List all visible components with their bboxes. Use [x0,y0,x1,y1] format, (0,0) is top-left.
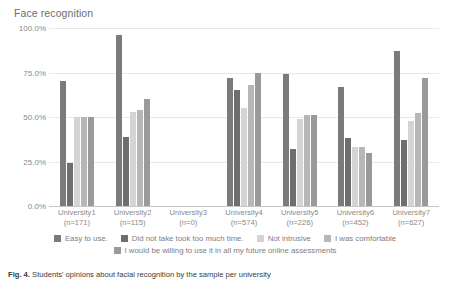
bar [352,147,358,206]
bar [130,112,136,206]
legend-swatch-icon [114,247,121,254]
plot-area [49,28,439,206]
bar [241,108,247,206]
bar [234,90,240,206]
legend-swatch-icon [54,235,61,242]
bar [422,78,428,206]
bar [67,163,73,206]
bar [304,115,310,206]
gridline [49,206,439,207]
x-axis-label: University3(n=0) [160,208,216,234]
bar [88,117,94,206]
bar-group [272,28,328,206]
bar [366,153,372,206]
legend-swatch-icon [324,235,331,242]
bar [144,99,150,206]
bar [359,147,365,206]
figure-caption: Fig. 4. Students' opinions about facial … [8,270,442,280]
bar-group [383,28,439,206]
x-axis-label-name: University5 [272,208,328,218]
figure-container: Face recognition 0.0%25.0%50.0%75.0%100.… [0,0,450,282]
bar-group [160,28,216,206]
x-axis-label: University6(n=452) [328,208,384,234]
bar [408,121,414,206]
bar [227,78,233,206]
x-axis-label: University5(n=226) [272,208,328,234]
bar [394,51,400,206]
bar-group [216,28,272,206]
bar [311,115,317,206]
x-axis-label: University7(n=627) [383,208,439,234]
bar-group [328,28,384,206]
legend-row: I would be willing to use it in all my f… [0,246,450,255]
legend-label: I would be willing to use it in all my f… [125,246,337,255]
x-axis-label-name: University7 [383,208,439,218]
legend-label: Not intrusive [268,234,311,243]
x-axis-label-name: University2 [105,208,161,218]
legend-item[interactable]: Did not take took too much time. [121,234,244,243]
legend-swatch-icon [257,235,264,242]
x-axis-label: University2(n=115) [105,208,161,234]
y-axis-tick-label: 25.0% [8,157,46,166]
x-axis-label-count: (n=226) [272,218,328,228]
bar [338,87,344,206]
legend-item[interactable]: I would be willing to use it in all my f… [114,246,337,255]
x-axis-label-name: University1 [49,208,105,218]
bar [345,138,351,206]
legend-item[interactable]: Not intrusive [257,234,311,243]
bar [255,73,261,207]
bar [290,149,296,206]
x-axis-label-count: (n=452) [328,218,384,228]
y-axis-tick-label: 75.0% [8,68,46,77]
x-axis-label: University1(n=171) [49,208,105,234]
x-axis-label-name: University6 [328,208,384,218]
x-axis-label-count: (n=574) [216,218,272,228]
bar [116,35,122,206]
bar [81,117,87,206]
y-axis-tick-label: 50.0% [8,113,46,122]
bar-group [105,28,161,206]
chart-legend: Easy to use.Did not take took too much t… [0,234,450,258]
legend-label: I was comfortable [335,234,396,243]
y-axis-tick-label: 0.0% [8,202,46,211]
x-axis-label-count: (n=627) [383,218,439,228]
legend-item[interactable]: I was comfortable [324,234,396,243]
caption-label: Fig. 4. [8,270,30,279]
x-axis-label-count: (n=171) [49,218,105,228]
y-axis-tick-label: 100.0% [8,24,46,33]
legend-swatch-icon [121,235,128,242]
chart-title: Face recognition [14,7,93,19]
bar-group [49,28,105,206]
bar [415,113,421,206]
x-axis-label-name: University3 [160,208,216,218]
x-axis-label-count: (n=115) [105,218,161,228]
bar [137,110,143,206]
legend-label: Easy to use. [65,234,108,243]
bar [123,137,129,206]
x-axis-labels: University1(n=171)University2(n=115)Univ… [49,208,439,234]
bar [401,140,407,206]
bar [248,85,254,206]
bar [297,119,303,206]
caption-text: Students' opinions about facial recognit… [32,270,271,279]
x-axis-label-name: University4 [216,208,272,218]
bar [60,81,66,206]
legend-row: Easy to use.Did not take took too much t… [0,234,450,243]
x-axis-label-count: (n=0) [160,218,216,228]
legend-item[interactable]: Easy to use. [54,234,108,243]
legend-label: Did not take took too much time. [132,234,244,243]
bar [283,74,289,206]
bar [74,117,80,206]
x-axis-label: University4(n=574) [216,208,272,234]
bar-groups [49,28,439,206]
